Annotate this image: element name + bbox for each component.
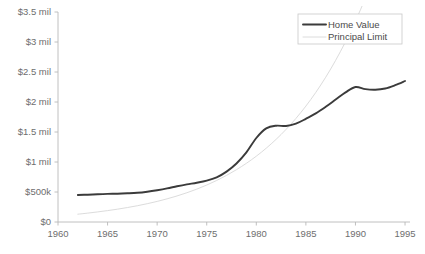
y-axis-tick-label: $500k <box>25 186 51 197</box>
x-axis-tick-label: 1985 <box>295 228 316 239</box>
legend-label-principal-limit: Principal Limit <box>328 31 387 42</box>
y-axis-tick-labels: $0$500k$1 mil$1.5 mil$2 mil$2.5 mil$3 mi… <box>18 6 58 227</box>
series-line-home-value <box>78 81 405 195</box>
x-axis-tick-label: 1970 <box>147 228 168 239</box>
y-axis-tick-label: $1.5 mil <box>18 126 51 137</box>
x-axis-tick-labels: 19601965197019751980198519901995 <box>47 222 415 239</box>
x-axis-tick-label: 1960 <box>47 228 68 239</box>
y-axis-tick-label: $3.5 mil <box>18 6 51 17</box>
chart-container: $0$500k$1 mil$1.5 mil$2 mil$2.5 mil$3 mi… <box>0 0 425 254</box>
y-axis-tick-label: $1 mil <box>26 156 51 167</box>
line-chart: $0$500k$1 mil$1.5 mil$2 mil$2.5 mil$3 mi… <box>0 0 425 254</box>
chart-legend: Home ValuePrincipal Limit <box>298 14 402 44</box>
y-axis-tick-label: $2 mil <box>26 96 51 107</box>
x-axis-tick-label: 1980 <box>246 228 267 239</box>
legend-label-home-value: Home Value <box>328 19 380 30</box>
y-axis-tick-label: $0 <box>40 216 51 227</box>
x-axis-tick-label: 1965 <box>97 228 118 239</box>
x-axis-tick-label: 1995 <box>394 228 415 239</box>
x-axis-tick-label: 1975 <box>196 228 217 239</box>
y-axis-tick-label: $2.5 mil <box>18 66 51 77</box>
y-axis-tick-label: $3 mil <box>26 36 51 47</box>
x-axis-tick-label: 1990 <box>345 228 366 239</box>
